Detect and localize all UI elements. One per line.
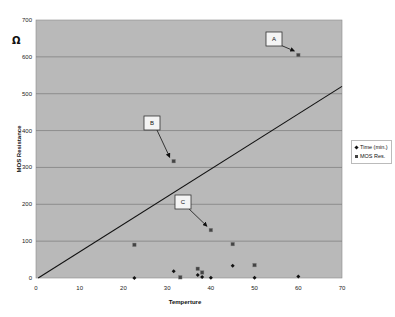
y-tick-label: 200	[22, 201, 33, 207]
legend: Time (min.) MOS Res.	[351, 140, 392, 164]
x-axis-ticks: 010203040506070	[34, 285, 346, 291]
y-tick-label: 500	[22, 91, 33, 97]
mos-res-point	[231, 242, 235, 246]
plot-area	[36, 20, 342, 278]
y-axis-unit-symbol: Ω	[12, 35, 21, 46]
square-marker-icon	[355, 155, 358, 158]
y-tick-label: 300	[22, 164, 33, 170]
callout-label: C	[181, 199, 186, 205]
y-tick-label: 600	[22, 54, 33, 60]
mos-res-point	[196, 267, 200, 271]
y-axis-ticks: 0100200300400500600700	[22, 17, 33, 281]
y-tick-label: 700	[22, 17, 33, 23]
diamond-marker-icon	[354, 145, 358, 149]
legend-item-mos: MOS Res.	[355, 152, 388, 161]
y-axis-title: MOS Resistance	[16, 125, 22, 173]
legend-item-time: Time (min.)	[355, 143, 388, 152]
y-tick-label: 100	[22, 238, 33, 244]
x-tick-label: 50	[251, 285, 258, 291]
y-tick-label: 0	[29, 275, 33, 281]
mos-res-point	[296, 53, 300, 57]
callout-label: A	[272, 36, 276, 42]
legend-label: Time (min.)	[360, 143, 388, 152]
scatter-chart: 0100200300400500600700 010203040506070 A…	[0, 0, 395, 317]
x-tick-label: 0	[34, 285, 38, 291]
x-axis-title: Temperture	[169, 299, 202, 305]
callout-label: B	[150, 120, 154, 126]
mos-res-point	[200, 271, 204, 275]
mos-res-point	[253, 263, 257, 267]
mos-res-point	[172, 159, 176, 163]
legend-label: MOS Res.	[360, 152, 385, 161]
x-tick-label: 70	[339, 285, 346, 291]
y-tick-label: 400	[22, 128, 33, 134]
x-tick-label: 10	[76, 285, 83, 291]
mos-res-point	[178, 275, 182, 279]
x-tick-label: 30	[164, 285, 171, 291]
mos-res-point	[133, 243, 137, 247]
x-tick-label: 40	[208, 285, 215, 291]
x-tick-label: 60	[295, 285, 302, 291]
mos-res-point	[209, 228, 213, 232]
x-tick-label: 20	[120, 285, 127, 291]
